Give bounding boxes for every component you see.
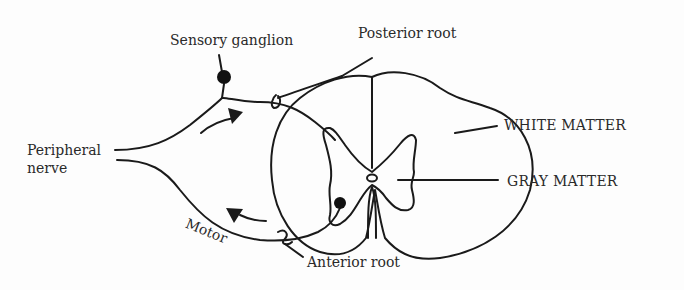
central-canal	[367, 175, 377, 182]
label-peripheral-nerve-line1: Peripheral	[27, 143, 101, 157]
label-gray-matter: GRAY MATTER	[507, 174, 618, 188]
label-white-matter: WHITE MATTER	[504, 118, 626, 132]
sensory-arrowhead-icon	[228, 108, 243, 124]
spinal-cord-outline	[271, 72, 532, 259]
ganglion-stalk	[222, 84, 224, 98]
label-sensory-ganglion: Sensory ganglion	[170, 33, 293, 47]
posterior-root-sheath	[278, 76, 342, 98]
anterior-root-leader	[285, 244, 303, 257]
peripheral-nerve-upper	[115, 98, 222, 150]
white-matter-leader	[455, 126, 497, 133]
posterior-root-loop	[272, 95, 280, 108]
sensory-ganglion-body	[217, 70, 231, 84]
ganglion-leader-line	[219, 55, 222, 72]
label-peripheral-nerve-line2: nerve	[27, 161, 67, 175]
diagram-drawing	[0, 0, 684, 290]
label-anterior-root: Anterior root	[307, 255, 400, 269]
motor-neuron-body	[334, 197, 346, 209]
peripheral-nerve-lower	[117, 160, 340, 241]
anterior-root-loop	[278, 231, 292, 244]
sensory-arrow-shaft	[201, 118, 234, 133]
label-posterior-root: Posterior root	[358, 26, 456, 40]
posterior-root-leader	[342, 58, 372, 76]
motor-arrow-shaft	[240, 215, 266, 221]
spinal-cord-diagram: Sensory ganglion Posterior root WHITE MA…	[0, 0, 684, 290]
gray-matter-outline	[323, 128, 416, 225]
